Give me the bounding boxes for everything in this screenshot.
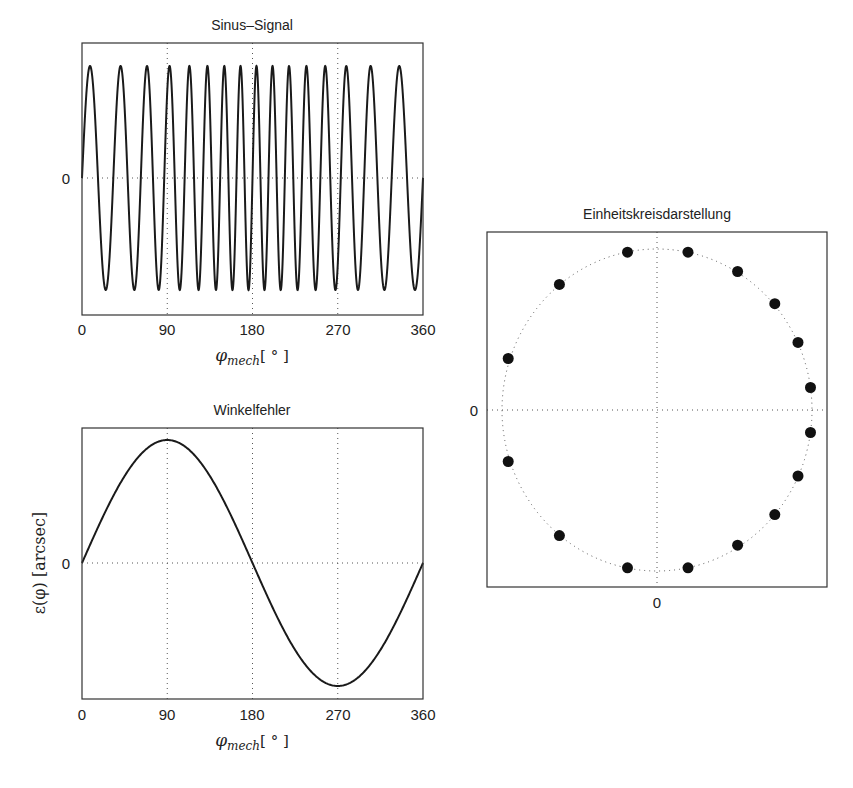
error-ylabel: ε(φ) [arcsec] — [30, 512, 49, 614]
error-xtick-270: 270 — [325, 706, 350, 723]
error-xlabel: φmech[ ° ] — [215, 730, 289, 753]
circle-point-0 — [622, 247, 633, 258]
error-ytick-0: 0 — [62, 555, 70, 572]
sinus-xtick-180: 180 — [239, 321, 264, 338]
circle-point-5 — [805, 382, 816, 393]
sinus-ytick-0: 0 — [62, 170, 70, 187]
sinus-xlabel: φmech[ ° ] — [215, 345, 289, 368]
circle-point-6 — [805, 427, 816, 438]
winkelfehler-plot: Winkelfehler 0 ε(φ) [arcsec] 0 90 180 27… — [30, 402, 436, 753]
error-xtick-0: 0 — [78, 706, 86, 723]
circle-xtick-0: 0 — [653, 594, 661, 611]
circle-point-10 — [683, 562, 694, 573]
sinus-title: Sinus–Signal — [211, 17, 293, 33]
figure: Sinus–Signal 0 0 90 180 270 360 φmech[ °… — [0, 0, 853, 788]
sinus-signal-plot: Sinus–Signal 0 0 90 180 270 360 φmech[ °… — [62, 17, 436, 368]
sinus-xtick-360: 360 — [410, 321, 435, 338]
circle-point-11 — [622, 562, 633, 573]
error-xtick-360: 360 — [410, 706, 435, 723]
error-title: Winkelfehler — [213, 402, 290, 418]
circle-point-9 — [732, 540, 743, 551]
error-curve — [82, 440, 423, 686]
error-xtick-90: 90 — [159, 706, 176, 723]
sinus-xtick-90: 90 — [159, 321, 176, 338]
circle-point-8 — [769, 509, 780, 520]
sinus-xtick-270: 270 — [325, 321, 350, 338]
circle-point-3 — [769, 298, 780, 309]
sinus-xtick-0: 0 — [78, 321, 86, 338]
circle-point-4 — [793, 337, 804, 348]
error-xtick-180: 180 — [239, 706, 264, 723]
circle-point-15 — [554, 279, 565, 290]
einheitskreis-plot: Einheitskreisdarstellung 0 0 — [470, 206, 827, 611]
circle-point-14 — [503, 353, 514, 364]
circle-point-2 — [732, 266, 743, 277]
circle-point-12 — [554, 530, 565, 541]
circle-point-1 — [683, 247, 694, 258]
circle-points — [503, 247, 816, 574]
circle-point-13 — [503, 456, 514, 467]
sinus-curve — [82, 66, 423, 290]
circle-point-7 — [793, 471, 804, 482]
circle-ytick-0: 0 — [470, 402, 478, 419]
circle-title: Einheitskreisdarstellung — [583, 206, 731, 222]
